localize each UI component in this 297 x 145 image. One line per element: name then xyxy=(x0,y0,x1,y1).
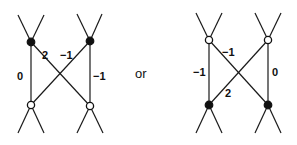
edge-leg xyxy=(77,14,90,41)
edge-leg xyxy=(18,15,31,42)
edge-leg xyxy=(18,105,31,133)
edge-leg xyxy=(196,13,209,40)
separator-or: or xyxy=(135,66,147,81)
edge-leg xyxy=(209,13,222,40)
edge-leg xyxy=(90,106,103,133)
node-open-top-right xyxy=(264,36,271,43)
node-open-bottom-left xyxy=(27,101,34,108)
edge-leg xyxy=(31,105,44,133)
label-left-vertical: −1 xyxy=(193,66,206,78)
node-filled-top-left xyxy=(27,38,35,46)
node-open-bottom-right xyxy=(86,102,93,109)
right-diagram: −1 −1 2 0 xyxy=(193,13,281,133)
label-diag-up: −1 xyxy=(60,49,73,61)
node-open-top-left xyxy=(205,36,212,43)
edge-leg xyxy=(255,13,268,40)
edge-leg xyxy=(255,105,268,133)
node-filled-bottom-left xyxy=(205,101,213,109)
edge-leg xyxy=(196,105,209,133)
edge-leg xyxy=(31,15,44,42)
label-right-vertical: 0 xyxy=(272,66,278,78)
node-filled-top-right xyxy=(86,37,94,45)
label-diag-up: 2 xyxy=(225,87,231,99)
label-left-vertical: 0 xyxy=(17,70,23,82)
label-right-vertical: −1 xyxy=(93,70,106,82)
edge-leg xyxy=(268,105,281,133)
label-diag-down: −1 xyxy=(222,46,235,58)
label-diag-down: 2 xyxy=(42,49,48,61)
diagram-canvas: 0 2 −1 −1 or −1 −1 2 0 xyxy=(0,0,297,145)
left-diagram: 0 2 −1 −1 xyxy=(17,14,106,133)
edge-leg xyxy=(77,106,90,133)
edge-leg xyxy=(209,105,222,133)
edge-leg xyxy=(90,14,102,41)
node-filled-bottom-right xyxy=(264,101,272,109)
edge-leg xyxy=(268,13,281,40)
